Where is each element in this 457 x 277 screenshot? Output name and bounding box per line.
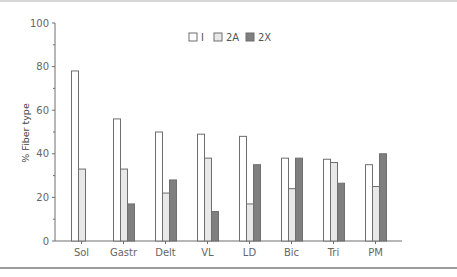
legend-label-i: I bbox=[201, 32, 204, 43]
x-tick-label: Bic bbox=[284, 247, 299, 258]
y-tick-label: 20 bbox=[36, 192, 49, 203]
x-tick-label: LD bbox=[243, 247, 257, 258]
y-tick-label: 80 bbox=[36, 61, 49, 72]
bar-pm-i bbox=[366, 165, 373, 241]
x-tick-label: Sol bbox=[74, 247, 89, 258]
bar-bic-2a bbox=[289, 189, 296, 241]
bottom-border bbox=[0, 267, 457, 269]
legend-swatch-i bbox=[189, 33, 197, 41]
legend-swatch-2x bbox=[246, 33, 254, 41]
bar-gastr-2x bbox=[128, 204, 135, 241]
bar-chart: 020406080100 SolGastrDeltVLLDBicTriPM I2… bbox=[0, 0, 457, 277]
bar-ld-2a bbox=[247, 204, 254, 241]
bar-delt-2a bbox=[163, 193, 170, 241]
y-axis-title: % Fiber type bbox=[20, 103, 31, 163]
bar-tri-2x bbox=[338, 183, 345, 241]
bar-sol-i bbox=[72, 71, 79, 241]
x-tick-label: VL bbox=[201, 247, 214, 258]
y-tick-label: 100 bbox=[30, 18, 49, 29]
bar-vl-i bbox=[198, 134, 205, 241]
bar-pm-2a bbox=[373, 187, 380, 242]
x-tick-label: Gastr bbox=[110, 247, 138, 258]
legend: I2A2X bbox=[189, 32, 271, 43]
bar-sol-2a bbox=[79, 169, 86, 241]
bar-bic-i bbox=[282, 158, 289, 241]
x-axis: SolGastrDeltVLLDBicTriPM bbox=[55, 241, 402, 258]
bar-tri-2a bbox=[331, 163, 338, 241]
bar-delt-2x bbox=[170, 180, 177, 241]
x-tick-label: PM bbox=[368, 247, 383, 258]
x-tick-label: Delt bbox=[155, 247, 176, 258]
bar-gastr-2a bbox=[121, 169, 128, 241]
bar-tri-i bbox=[324, 159, 331, 241]
legend-label-2a: 2A bbox=[226, 32, 239, 43]
bar-gastr-i bbox=[114, 119, 121, 241]
bar-bic-2x bbox=[296, 158, 303, 241]
bars bbox=[72, 71, 387, 241]
bar-pm-2x bbox=[380, 154, 387, 241]
legend-swatch-2a bbox=[214, 33, 222, 41]
y-tick-label: 60 bbox=[36, 105, 49, 116]
y-axis: 020406080100 bbox=[30, 18, 55, 247]
x-tick-label: Tri bbox=[327, 247, 340, 258]
bar-vl-2x bbox=[212, 212, 219, 241]
y-tick-label: 40 bbox=[36, 148, 49, 159]
y-tick-label: 0 bbox=[43, 236, 49, 247]
bar-delt-i bbox=[156, 132, 163, 241]
bar-vl-2a bbox=[205, 158, 212, 241]
legend-label-2x: 2X bbox=[258, 32, 271, 43]
bar-ld-2x bbox=[254, 165, 261, 241]
bar-ld-i bbox=[240, 136, 247, 241]
